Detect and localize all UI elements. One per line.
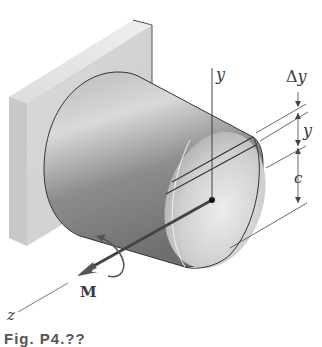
strip-distance-label: y [302, 121, 313, 140]
z-axis-label: z [6, 306, 15, 324]
radius-label: c [294, 169, 303, 187]
strip-thickness-label: Δy [286, 67, 308, 86]
cylindrical-shaft [44, 72, 282, 281]
figure-caption: Fig. P4.?? [4, 330, 86, 347]
y-axis-label: y [215, 65, 226, 84]
moment-label: M [80, 283, 97, 301]
z-axis-line [18, 283, 68, 312]
wall-side-face [9, 97, 27, 246]
